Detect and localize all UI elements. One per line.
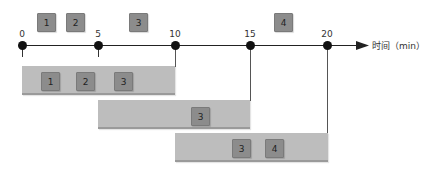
- batch3-chip-4: 4: [265, 139, 284, 158]
- batch-bar-2: [98, 100, 250, 129]
- tick-label-15: 15: [244, 29, 255, 39]
- connector-20: [327, 45, 328, 134]
- batch1-chip-1: 1: [41, 72, 60, 91]
- tick-label-20: 20: [321, 29, 332, 39]
- tick-dot-20: [323, 41, 332, 50]
- axis-arrow-icon: [356, 40, 370, 51]
- tick-dot-10: [171, 41, 180, 50]
- arrival-chip-2: 2: [66, 13, 85, 32]
- batch1-chip-3: 3: [114, 72, 133, 91]
- batch2-chip-3: 3: [191, 107, 210, 126]
- tick-label-10: 10: [169, 29, 180, 39]
- tick-dot-15: [246, 41, 255, 50]
- arrival-chip-4: 4: [274, 13, 293, 32]
- arrival-chip-1: 1: [37, 13, 56, 32]
- tick-dot-0: [18, 41, 27, 50]
- tick-label-5: 5: [95, 29, 101, 39]
- batch1-chip-2: 2: [76, 72, 95, 91]
- tick-dot-5: [94, 41, 103, 50]
- connector-15: [250, 45, 251, 101]
- arrival-chip-3: 3: [129, 13, 148, 32]
- batch3-chip-3: 3: [232, 139, 251, 158]
- time-axis: [22, 45, 360, 46]
- batch-bar-3: [175, 133, 328, 162]
- axis-title: 时间（min）: [372, 39, 425, 52]
- tick-label-0: 0: [19, 29, 25, 39]
